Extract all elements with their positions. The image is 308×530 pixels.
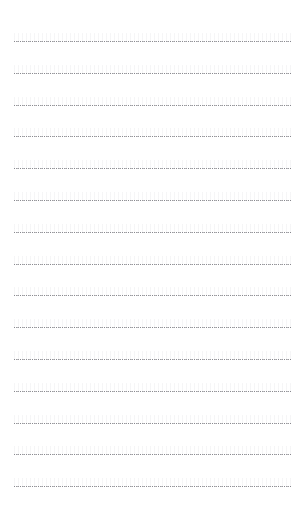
ruled-line	[0, 256, 308, 268]
ruled-line-rule	[14, 264, 292, 265]
ruled-line	[0, 97, 308, 109]
ruled-line	[0, 160, 308, 172]
ruled-line-rule	[14, 105, 292, 106]
ruled-line-ghost	[14, 160, 292, 168]
ruled-line-ghost	[14, 287, 292, 295]
ruled-line-ghost	[14, 415, 292, 423]
ruled-line	[0, 128, 308, 140]
ruled-line	[0, 287, 308, 299]
ruled-line	[0, 33, 308, 45]
ruled-line-rule	[14, 295, 292, 296]
ruled-line-ghost	[14, 319, 292, 327]
ruled-line-ghost	[14, 383, 292, 391]
ruled-line-ghost	[14, 478, 292, 486]
ruled-line-ghost	[14, 97, 292, 105]
ruled-line-ghost	[14, 351, 292, 359]
ruled-line-rule	[14, 454, 292, 455]
ruled-line	[0, 192, 308, 204]
ruled-line	[0, 65, 308, 77]
ruled-line	[0, 383, 308, 395]
ruled-line-ghost	[14, 256, 292, 264]
ruled-line	[0, 224, 308, 236]
ruled-line-ghost	[14, 65, 292, 73]
lined-paper-page	[0, 0, 308, 530]
ruled-line-ghost	[14, 128, 292, 136]
ruled-line-ghost	[14, 224, 292, 232]
ruled-line-ghost	[14, 33, 292, 41]
ruled-line-rule	[14, 73, 292, 74]
ruled-line	[0, 446, 308, 458]
ruled-line-rule	[14, 168, 292, 169]
ruled-line-rule	[14, 359, 292, 360]
ruled-line	[0, 319, 308, 331]
ruled-line-rule	[14, 41, 292, 42]
ruled-line-rule	[14, 136, 292, 137]
ruled-line-ghost	[14, 446, 292, 454]
ruled-line-rule	[14, 200, 292, 201]
bottom-margin	[0, 486, 308, 530]
ruled-line-ghost	[14, 192, 292, 200]
ruled-lines-area	[0, 0, 308, 530]
ruled-line	[0, 415, 308, 427]
ruled-line-rule	[14, 327, 292, 328]
ruled-line	[0, 351, 308, 363]
ruled-line-rule	[14, 232, 292, 233]
ruled-line-rule	[14, 423, 292, 424]
ruled-line-rule	[14, 391, 292, 392]
